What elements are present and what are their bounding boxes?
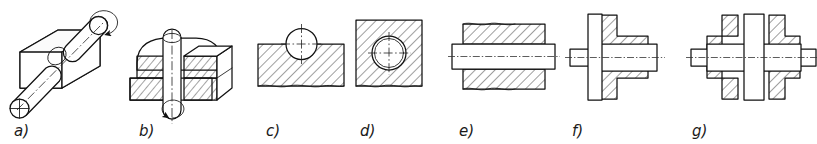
figure-b-label: b) bbox=[139, 122, 154, 140]
figure-e-label: e) bbox=[459, 122, 474, 140]
figure-g-web bbox=[744, 14, 764, 100]
figure-d-group: d) bbox=[356, 20, 422, 140]
figure-b-group: b) bbox=[130, 29, 232, 140]
figure-f-label: f) bbox=[572, 122, 583, 140]
figure-plate-canvas: a) bbox=[0, 0, 817, 144]
figure-f-collar bbox=[588, 14, 602, 100]
figure-g-group: g) bbox=[686, 14, 817, 140]
figure-e-lower-block bbox=[463, 69, 545, 90]
figure-a-group: a) bbox=[10, 11, 118, 140]
figure-a-label: a) bbox=[14, 122, 29, 140]
figure-f-group: f) bbox=[565, 14, 665, 140]
figure-c-group: c) bbox=[258, 24, 344, 140]
figure-e-upper-block bbox=[463, 23, 545, 44]
figure-d-label: d) bbox=[360, 122, 375, 140]
figure-e-group: e) bbox=[448, 23, 560, 140]
figure-g-label: g) bbox=[692, 122, 707, 140]
figure-c-label: c) bbox=[266, 122, 280, 140]
engineering-figure-plate: a) bbox=[0, 0, 817, 144]
